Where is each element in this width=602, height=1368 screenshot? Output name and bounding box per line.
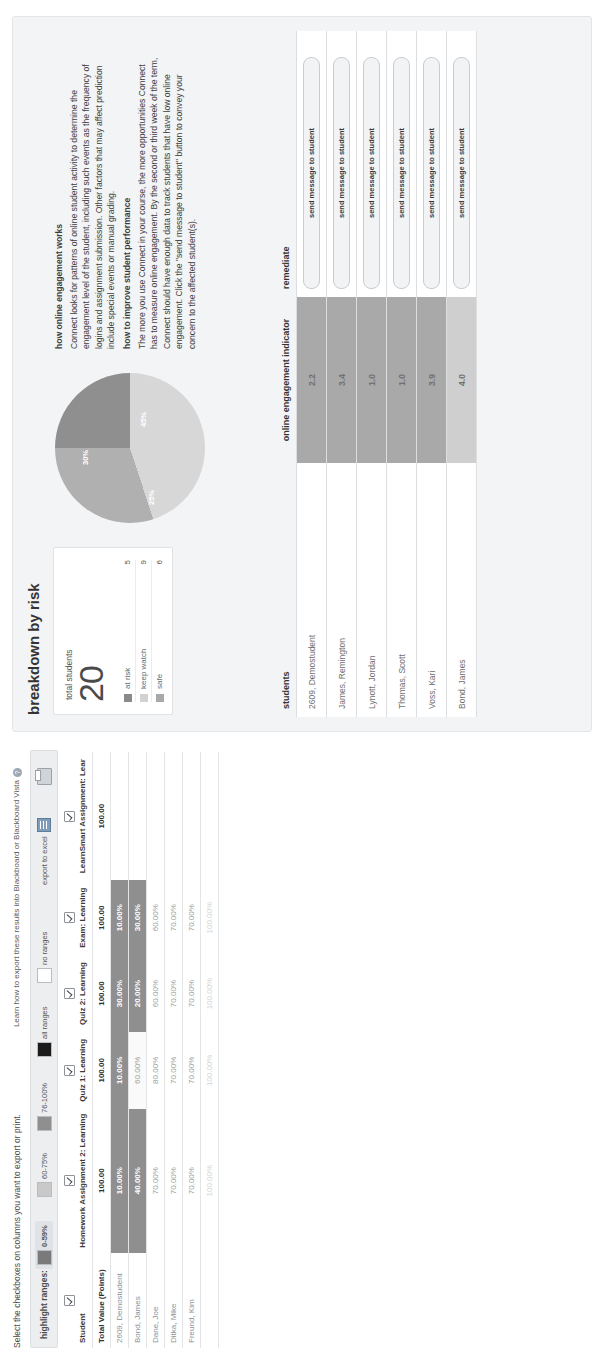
- column-label: LearnSmart Assignment: Lear: [78, 759, 87, 873]
- engagement-value: 1.0: [387, 297, 417, 463]
- learn-how-link[interactable]: Learn how to export these results into B…: [12, 768, 22, 1027]
- send-message-button[interactable]: send message to student: [303, 57, 320, 289]
- pie-label-safe: 30%: [81, 450, 90, 465]
- range-swatch-icon: [37, 968, 52, 983]
- connect-reports-screen: Select the checkboxes on columns you wan…: [0, 0, 602, 1368]
- total-value-cell: 100.00: [93, 880, 111, 955]
- rotated-screenshot-wrapper: Select the checkboxes on columns you wan…: [0, 0, 602, 1368]
- table-row: 2609, Demostudent 2.2 send message to st…: [297, 31, 327, 717]
- range-76-100[interactable]: 76-100%: [35, 1079, 53, 1135]
- table-row: Ditka, Mike 70.00% 70.00% 70.00% 70.00%: [165, 752, 183, 1348]
- range-0-59[interactable]: 0-59%: [35, 1221, 53, 1269]
- grades-table: Student Homework Assignment 2: Learning …: [60, 752, 219, 1348]
- send-message-button[interactable]: send message to student: [333, 57, 350, 289]
- column-checkbox[interactable]: [64, 912, 75, 923]
- column-header-homework-2[interactable]: Homework Assignment 2: Learning: [60, 1109, 93, 1253]
- range-swatch-icon: [37, 1116, 52, 1131]
- grade-cell: 30.00%: [129, 880, 147, 955]
- student-name: Thomas, Scott: [387, 463, 417, 717]
- table-row: James, Remington 3.4 send message to stu…: [327, 31, 357, 717]
- how-to-improve-block: how to improve student performance The m…: [121, 49, 198, 349]
- grade-cell: 60.00%: [129, 1032, 147, 1109]
- engagement-value: 4.0: [447, 297, 477, 463]
- column-checkbox[interactable]: [64, 1065, 75, 1076]
- column-header-quiz-1[interactable]: Quiz 1: Learning: [60, 1032, 93, 1109]
- student-name: Bond, James: [447, 463, 477, 717]
- grade-cell: 100.00%: [201, 1032, 219, 1109]
- engagement-value: 1.0: [357, 297, 387, 463]
- column-checkbox[interactable]: [64, 1175, 75, 1186]
- column-header-exam[interactable]: Exam: Learning: [60, 880, 93, 955]
- engagement-value: 3.9: [417, 297, 447, 463]
- column-label: Exam: Learning: [78, 888, 87, 948]
- remediate-cell: send message to student: [387, 31, 417, 297]
- grade-cell: 100.00%: [201, 955, 219, 1032]
- legend-count: 9: [139, 560, 148, 564]
- column-checkbox[interactable]: [64, 988, 75, 999]
- grade-cell: 10.00%: [111, 880, 129, 955]
- grade-cell: 60.00%: [147, 880, 165, 955]
- total-students-card: total students 20 at risk 5 keep watch 9…: [53, 547, 173, 715]
- question-mark-icon[interactable]: ?: [13, 768, 22, 777]
- grade-cell: 40.00%: [129, 1109, 147, 1253]
- risk-pie-chart: 25% 45% 30%: [55, 373, 205, 523]
- grade-cell: 100.00%: [201, 880, 219, 955]
- student-name: Ditka, Mike: [165, 1253, 183, 1348]
- grade-cell: 100.00%: [201, 1109, 219, 1253]
- range-60-75[interactable]: 60-75%: [35, 1149, 53, 1201]
- send-message-button[interactable]: send message to student: [423, 57, 440, 289]
- student-name: 2609, Demostudent: [111, 1253, 129, 1348]
- grade-cell: 10.00%: [111, 1032, 129, 1109]
- student-name: Dane, Joe: [147, 1253, 165, 1348]
- how-engagement-works-body: Connect looks for patterns of online stu…: [68, 49, 118, 349]
- remediate-cell: send message to student: [447, 31, 477, 297]
- total-value-cell: 100.00: [93, 1109, 111, 1253]
- engagement-value: 3.4: [327, 297, 357, 463]
- legend-label: safe: [155, 674, 164, 689]
- how-to-improve-heading: how to improve student performance: [121, 49, 134, 349]
- how-engagement-works-heading: how online engagement works: [53, 49, 66, 349]
- grade-cell: 70.00%: [165, 955, 183, 1032]
- column-checkbox[interactable]: [64, 811, 75, 822]
- column-header-quiz-2[interactable]: Quiz 2: Learning: [60, 955, 93, 1032]
- column-header-remediate: remediate: [281, 31, 297, 297]
- student-name: James, Remington: [327, 463, 357, 717]
- grade-cell: [201, 752, 219, 880]
- column-label: Student: [78, 1313, 87, 1343]
- export-to-excel-button[interactable]: export to excel: [35, 812, 53, 891]
- engagement-header-row: students online engagement indicator rem…: [281, 31, 297, 717]
- student-name: Bond, James: [129, 1253, 147, 1348]
- column-header-learnsmart[interactable]: LearnSmart Assignment: Lear: [60, 752, 93, 880]
- page-title: breakdown by risk: [25, 583, 42, 715]
- range-none[interactable]: no ranges: [35, 928, 53, 987]
- column-label: Quiz 1: Learning: [78, 1039, 87, 1102]
- send-message-button[interactable]: send message to student: [393, 57, 410, 289]
- total-value-cell: 100.00: [93, 955, 111, 1032]
- legend-count: 5: [123, 560, 132, 564]
- table-row: Bond, James 40.00% 60.00% 20.00% 30.00%: [129, 752, 147, 1348]
- send-message-button[interactable]: send message to student: [363, 57, 380, 289]
- column-label: Quiz 2: Learning: [78, 962, 87, 1025]
- legend-item-at-risk: at risk 5: [120, 560, 136, 702]
- grade-cell: [111, 752, 129, 880]
- column-header-engagement: online engagement indicator: [281, 297, 297, 463]
- table-row: Thomas, Scott 1.0 send message to studen…: [387, 31, 417, 717]
- legend-count: 6: [155, 560, 164, 564]
- table-header-row: Student Homework Assignment 2: Learning …: [60, 752, 93, 1348]
- column-header-student[interactable]: Student: [60, 1253, 93, 1348]
- total-students-value: 20: [72, 666, 111, 702]
- student-name: [201, 1253, 219, 1348]
- excel-icon[interactable]: [37, 818, 51, 832]
- grade-cell: 70.00%: [183, 1109, 201, 1253]
- remediate-cell: send message to student: [297, 31, 327, 297]
- printer-icon[interactable]: [37, 768, 52, 785]
- breakdown-by-risk-panel: breakdown by risk total students 20 at r…: [12, 16, 592, 732]
- export-instruction: Select the checkboxes on columns you wan…: [12, 1114, 22, 1348]
- grade-cell: 30.00%: [111, 955, 129, 1032]
- print-button[interactable]: [35, 762, 53, 791]
- how-to-improve-body: The more you use Connect in your course,…: [136, 49, 199, 349]
- range-all[interactable]: all ranges: [35, 1002, 53, 1061]
- column-checkbox[interactable]: [64, 1295, 75, 1306]
- send-message-button[interactable]: send message to student: [453, 57, 470, 289]
- grade-cell: 80.00%: [147, 1032, 165, 1109]
